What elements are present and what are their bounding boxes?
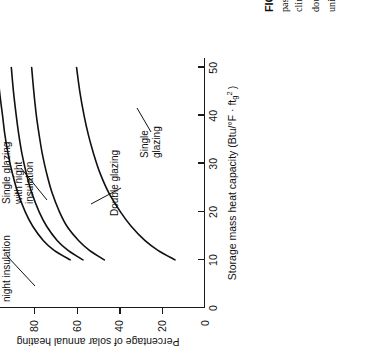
figure-caption: FIGURE 6.34 Effect of storage mass on th… xyxy=(262,0,340,12)
series-label-single-glazing-night-insulation: Single glazingwith nightinsulation xyxy=(1,142,36,204)
y-tick-label: 0 xyxy=(199,320,211,326)
caption-l4-a: double glazing xyxy=(310,0,321,12)
series-label-line: Double glazing xyxy=(109,150,120,216)
x-axis-title-text: Storage mass heat capacity (Btu/°F · ftg… xyxy=(226,86,238,280)
caption-line-1: FIGURE 6.34 Effect of storage mass on th… xyxy=(262,0,278,12)
y-tick xyxy=(119,308,120,314)
y-tick-label: 40 xyxy=(113,320,125,332)
caption-line-4: double glazing Rsg = 2.0; for windows wi… xyxy=(309,0,326,12)
x-tick-label: 30 xyxy=(207,158,219,170)
caption-line-5-text: units and resistances are xyxy=(326,0,337,12)
x-tick-label: 50 xyxy=(207,62,219,74)
y-tick xyxy=(162,308,163,314)
series-label-double-glazing-night-insulation: Double glazing withnight insulation xyxy=(0,215,12,302)
series-label-line: night insulation xyxy=(1,235,12,302)
plot-area: 01020304050 020406080 Double glazing wit… xyxy=(0,58,205,308)
caption-line-2-text: passively heated building modeled for th… xyxy=(279,0,290,12)
x-tick-label: 40 xyxy=(207,110,219,122)
x-axis-title: Storage mass heat capacity (Btu/°F · ftg… xyxy=(225,86,239,280)
y-tick xyxy=(34,308,35,314)
series-label-single-glazing: Singleglazing xyxy=(139,126,162,158)
y-tick-label: 20 xyxy=(156,320,168,332)
caption-line-3: climate (1972–1973). Rsg = 1; for single… xyxy=(292,0,309,12)
y-tick xyxy=(77,308,78,314)
series-label-line: insulation xyxy=(24,162,35,204)
y-axis-title: Percentage of solar annual heating xyxy=(17,336,180,348)
y-tick-label: 80 xyxy=(28,320,40,332)
x-tick-label: 0 xyxy=(207,305,219,311)
caption-line-5: units and resistances are xyxy=(325,0,340,12)
series-label-line: Single xyxy=(139,130,150,158)
caption-l3-a: climate (1972–1973). xyxy=(293,0,304,12)
series-label-double-glazing: Double glazing xyxy=(109,150,121,216)
chart-rotated-container: 01020304050 020406080 Double glazing wit… xyxy=(0,0,285,360)
x-tick-label: 20 xyxy=(207,206,219,218)
y-tick-label: 60 xyxy=(71,320,83,332)
x-tick-label: 10 xyxy=(207,254,219,266)
figure-number: FIGURE 6.34 xyxy=(263,0,275,12)
series-label-line: with night xyxy=(13,162,24,204)
caption-line-2: passively heated building modeled for th… xyxy=(278,0,293,12)
figure-page: 01020304050 020406080 Double glazing wit… xyxy=(0,0,392,360)
series-label-line: Single glazing xyxy=(1,142,12,204)
series-label-line: glazing xyxy=(151,126,162,158)
